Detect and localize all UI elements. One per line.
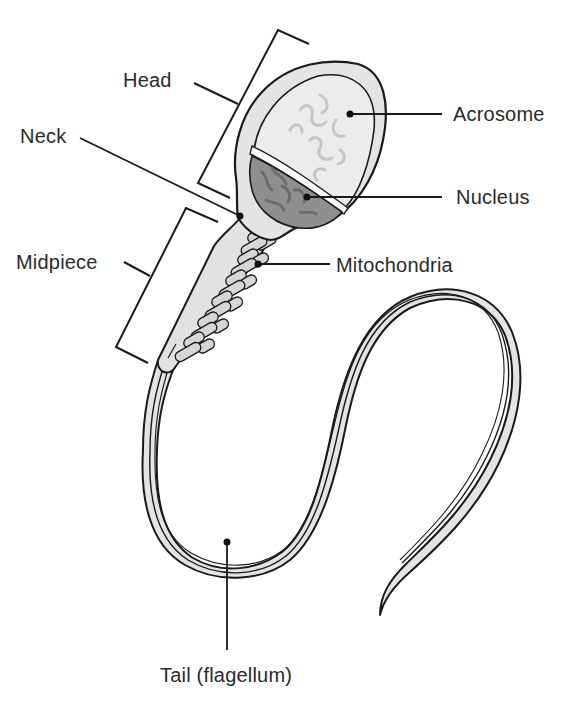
acrosome-point-dot [347,111,354,118]
nucleus-point-dot [304,194,311,201]
label-tail: Tail (flagellum) [160,665,292,685]
head [235,62,386,240]
tail-point-dot [224,539,231,546]
label-head: Head [123,70,172,90]
label-midpiece: Midpiece [16,252,98,272]
mitochondria-point-dot [255,261,262,268]
neck-point-dot [237,213,244,220]
midpiece-bracket-leader [124,262,150,276]
head-bracket-leader [194,83,238,104]
label-mitochondria: Mitochondria [336,255,453,275]
sperm-cell-diagram: Head Neck Midpiece Acrosome Nucleus Mito… [0,0,583,703]
label-acrosome: Acrosome [453,104,545,124]
label-nucleus: Nucleus [456,187,530,207]
label-neck: Neck [20,126,66,146]
